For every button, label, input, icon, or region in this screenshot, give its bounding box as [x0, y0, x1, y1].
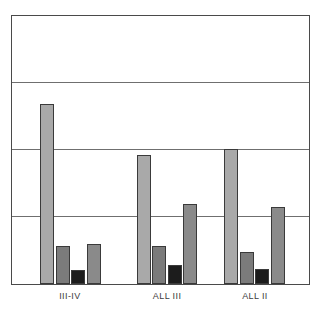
bar-all-ii-series-1 [224, 149, 238, 284]
bar-iii-iv-series-3 [71, 270, 85, 284]
bar-iii-iv-series-2 [56, 246, 70, 284]
x-axis-labels: III-IVALL IIIALL II [11, 291, 310, 307]
bar-iii-iv-series-4 [87, 244, 101, 284]
plot-area [11, 15, 310, 285]
bar-all-ii-series-4 [271, 207, 285, 284]
x-axis-label-all-iii: ALL III [153, 291, 181, 301]
x-axis-label-all-ii: ALL II [242, 291, 268, 301]
bar-all-iii-series-3 [168, 265, 182, 284]
bar-iii-iv-series-1 [40, 104, 54, 284]
bars-layer [12, 16, 309, 284]
bar-all-iii-series-2 [152, 246, 166, 284]
bar-all-iii-series-4 [183, 204, 197, 284]
bar-all-ii-series-3 [255, 269, 269, 284]
x-axis-label-iii-iv: III-IV [59, 291, 80, 301]
bar-chart: III-IVALL IIIALL II [0, 0, 322, 316]
bar-all-ii-series-2 [240, 252, 254, 284]
bar-all-iii-series-1 [137, 155, 151, 284]
